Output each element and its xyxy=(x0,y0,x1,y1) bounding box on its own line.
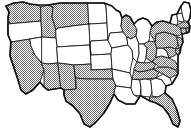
state-nd[interactable]: North Dakota xyxy=(88,3,107,24)
state-ut[interactable]: Utah xyxy=(42,37,58,64)
state-nm[interactable]: New Mexico xyxy=(58,63,76,90)
us-map-container: Washington Oregon California Nevada Idah… xyxy=(0,0,191,133)
state-mo[interactable]: Missouri xyxy=(111,45,133,73)
us-states-map[interactable]: Washington Oregon California Nevada Idah… xyxy=(0,0,191,133)
state-wy[interactable]: Wyoming xyxy=(56,24,90,47)
state-co[interactable]: Colorado xyxy=(57,45,91,65)
state-al[interactable]: Alabama xyxy=(140,79,152,97)
